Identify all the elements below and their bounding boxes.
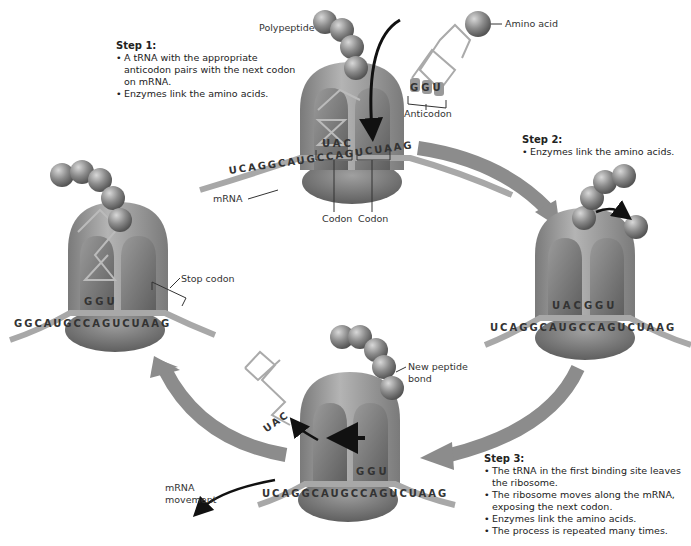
step3-bullet: The tRNA in the first binding site leave… [484, 465, 684, 489]
label-mrna-movement: mRNA movement [165, 482, 216, 506]
trna-anticodon-final: GGU [84, 296, 118, 308]
mrna-sequence-step3: UCAGGCAUGCCAGUCUAAG [262, 488, 448, 500]
label-new-peptide-bond: New peptide bond [408, 361, 468, 385]
step1-callout: Step 1: A tRNA with the appropriate anti… [116, 40, 306, 100]
label-stop-codon: Stop codon [181, 273, 235, 285]
step3-bullet: The process is repeated many times. [484, 525, 684, 537]
ribosome-step1 [300, 10, 404, 204]
trna-anticodons-step2: UACGGU [552, 300, 617, 312]
label-polypeptide: Polypeptide [259, 22, 315, 34]
step2-title: Step 2: [522, 134, 691, 146]
label-codon-1: Codon [322, 213, 352, 225]
step3-callout: Step 3: The tRNA in the first binding si… [484, 453, 684, 537]
step2-callout: Step 2: Enzymes link the amino acids. [522, 134, 691, 158]
mrna-sequence-final: GGCAUGCCAGUCUAAG [14, 318, 171, 330]
trna-anticodon-step1: UAC [322, 138, 354, 150]
label-anticodon: Anticodon [404, 108, 452, 120]
step3-bullet: The ribosome moves along the mRNA, expos… [484, 489, 684, 513]
step1-bullet: A tRNA with the appropriate anticodon pa… [116, 52, 306, 88]
step2-bullet: Enzymes link the amino acids. [522, 146, 691, 158]
incoming-anticodon: GGU [410, 82, 444, 94]
cycle-arrow-bottom-to-left [150, 356, 286, 455]
step3-bullet: Enzymes link the amino acids. [484, 513, 684, 525]
incoming-trna [408, 11, 502, 110]
step3-title: Step 3: [484, 453, 684, 465]
mrna-sequence-step2: UCAGGCAUGCCAGUCUAAG [490, 322, 676, 334]
label-amino-acid: Amino acid [505, 18, 558, 30]
label-codon-2: Codon [358, 213, 388, 225]
step1-title: Step 1: [116, 40, 306, 52]
step1-bullet: Enzymes link the amino acids. [116, 88, 306, 100]
label-mrna: mRNA [213, 193, 242, 205]
trna-anticodon-step3: GGU [356, 466, 390, 478]
